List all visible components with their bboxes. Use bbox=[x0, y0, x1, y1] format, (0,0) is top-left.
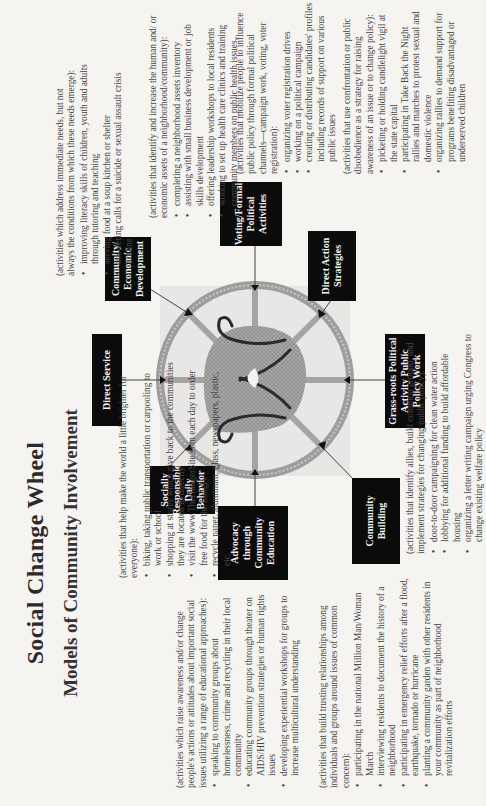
list-item: organizing rallies to demand support for… bbox=[434, 2, 468, 174]
spoke-label: Direct Action Strategies bbox=[320, 234, 344, 298]
section-direct-service: (activities which address immediate need… bbox=[55, 61, 136, 276]
list-item: speaking to community groups about homel… bbox=[210, 588, 244, 788]
section-direct-action: (activities that use confrontation or pu… bbox=[342, 2, 468, 174]
section-community-building: (activities that build trusting relation… bbox=[318, 576, 456, 788]
list-item: recycle paper, aluminum, glass, newspape… bbox=[210, 358, 233, 578]
list-item: visit the www.TheHungerSite.com each day… bbox=[187, 358, 210, 578]
section-socially-responsible: (activities that help make the world a l… bbox=[118, 358, 233, 578]
list-item: biking, taking public transportation or … bbox=[142, 358, 165, 578]
list-item: completing a neighborhood assets invento… bbox=[172, 3, 183, 218]
list-item: lobbying for additional funding to build… bbox=[440, 329, 463, 554]
section-community-economic-development: (activities that identify and increase t… bbox=[148, 3, 240, 218]
list-item: shopping at stores which give back to th… bbox=[165, 358, 188, 578]
list-item: participating in Take Back the Night ral… bbox=[400, 2, 434, 174]
list-item: serving food at a soup kitchen or shelte… bbox=[102, 61, 113, 276]
list-item: developing experiential workshops for gr… bbox=[279, 588, 302, 788]
spoke-label: Community Building bbox=[364, 481, 388, 561]
list-item: assisting with small business developmen… bbox=[183, 3, 206, 218]
list-item: door-to-door campaigning for clean water… bbox=[429, 329, 440, 554]
list-item: working on a political campaign bbox=[293, 2, 304, 174]
list-item: offering leadership workshops to local r… bbox=[206, 3, 217, 218]
list-item: picketing or holding candlelight vigil a… bbox=[377, 2, 400, 174]
list-item: participating in emergency relief effort… bbox=[399, 576, 422, 788]
list-item: organizing voter registration drives bbox=[282, 2, 293, 174]
list-item: improving literacy skills of children, y… bbox=[79, 61, 102, 276]
list-item: answering calls for a suicide or sexual … bbox=[113, 61, 136, 276]
spoke-box-direct-action-strategies: Direct Action Strategies bbox=[308, 231, 356, 301]
list-item: creating or distributing candidates' pro… bbox=[304, 2, 338, 174]
spoke-label: Direct Service bbox=[101, 350, 113, 410]
page-title: Social Change Wheel bbox=[22, 150, 49, 806]
section-voting-formal-political: (activities that mobilize people to infl… bbox=[235, 2, 339, 174]
list-item: interviewing residents to document the h… bbox=[376, 576, 399, 788]
section-advocacy: (activities which raise awareness and/or… bbox=[175, 588, 301, 788]
section-grass-roots: (activities that identify allies, build … bbox=[405, 329, 486, 554]
spoke-label: Advocacy through Community Education bbox=[229, 509, 277, 577]
list-item: participating in the national Million Ma… bbox=[353, 576, 376, 788]
spoke-box-community-building: Community Building bbox=[352, 478, 400, 564]
list-item: organizing a letter writing campaign urg… bbox=[463, 329, 486, 554]
list-item: educating community groups through theat… bbox=[244, 588, 278, 788]
list-item: planting a community garden with other r… bbox=[422, 576, 456, 788]
